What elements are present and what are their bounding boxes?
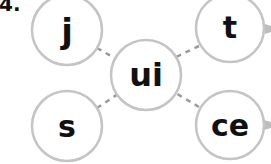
connector-bottom-right bbox=[174, 92, 199, 107]
nub-top-right bbox=[265, 24, 271, 34]
connector-bottom-left bbox=[97, 94, 118, 108]
connector-top-right bbox=[174, 46, 199, 58]
node-label-top-left: j bbox=[59, 11, 73, 51]
node-label-top-right: t bbox=[223, 10, 237, 45]
word-building-diagram: j t ui s ce bbox=[0, 0, 271, 164]
node-label-bottom-right: ce bbox=[211, 108, 249, 143]
node-label-bottom-left: s bbox=[58, 109, 76, 144]
center-label: ui bbox=[129, 56, 163, 94]
